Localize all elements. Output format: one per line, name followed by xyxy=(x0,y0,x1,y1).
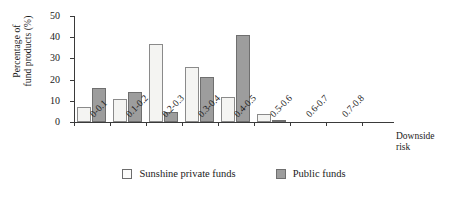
x-axis-tick xyxy=(254,122,255,126)
legend-label-public-funds: Public funds xyxy=(293,168,346,179)
y-axis-tick xyxy=(70,80,74,81)
x-axis-tick xyxy=(74,122,75,126)
bar-0.5-0.6-public-funds xyxy=(272,120,286,122)
x-axis-tick xyxy=(218,122,219,126)
y-axis-tick-label: 40 xyxy=(34,32,60,42)
light-swatch-icon xyxy=(122,169,132,179)
x-axis-tick xyxy=(362,122,363,126)
x-axis-title: Downside risk xyxy=(396,131,462,153)
x-axis-tick xyxy=(110,122,111,126)
y-axis-tick-label: 10 xyxy=(34,96,60,106)
y-axis-tick xyxy=(70,37,74,38)
plot-area: 01020304050 xyxy=(74,16,370,122)
legend-label-sunshine-private-funds: Sunshine private funds xyxy=(139,168,235,179)
y-axis-tick xyxy=(70,101,74,102)
x-axis-tick xyxy=(290,122,291,126)
x-axis-tick xyxy=(326,122,327,126)
bar-chart-figure: Percentage of fund products (%) 01020304… xyxy=(0,0,468,203)
y-axis-tick xyxy=(70,58,74,59)
dark-swatch-icon xyxy=(276,169,286,179)
x-axis-line xyxy=(74,122,394,123)
x-axis-tick xyxy=(146,122,147,126)
x-axis-tick xyxy=(182,122,183,126)
y-axis-tick-label: 50 xyxy=(34,11,60,21)
legend-item-public-funds: Public funds xyxy=(276,168,346,179)
legend-item-sunshine-private-funds: Sunshine private funds xyxy=(122,168,235,179)
x-axis-title-line-1: Downside xyxy=(396,131,462,142)
bar-0.5-0.6-sunshine-private-funds xyxy=(257,114,271,122)
y-axis-tick-label: 0 xyxy=(34,117,60,127)
y-axis-tick xyxy=(70,16,74,17)
y-axis-tick-label: 20 xyxy=(34,75,60,85)
x-axis-title-line-2: risk xyxy=(396,142,462,153)
y-axis-tick-label: 30 xyxy=(34,53,60,63)
chart-legend: Sunshine private funds Public funds xyxy=(0,168,468,179)
y-axis-title-line-2: fund products (%) xyxy=(23,16,34,87)
y-axis-title-line-1: Percentage of xyxy=(12,24,23,77)
y-axis-line xyxy=(74,16,75,122)
